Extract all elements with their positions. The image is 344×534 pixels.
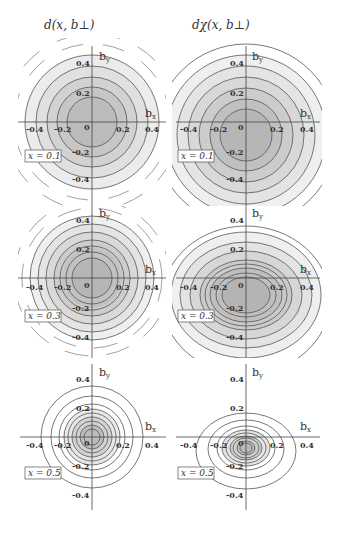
svg-text:-0.4: -0.4 bbox=[180, 440, 198, 450]
svg-text:-0.2: -0.2 bbox=[72, 461, 89, 471]
svg-text:x = 0.3: x = 0.3 bbox=[28, 311, 61, 321]
svg-text:x = 0.3: x = 0.3 bbox=[181, 311, 214, 321]
svg-text:x = 0.1: x = 0.1 bbox=[28, 151, 61, 161]
axis-label-bx: bx bbox=[145, 263, 156, 277]
svg-text:0.2: 0.2 bbox=[270, 440, 284, 450]
svg-text:0.4: 0.4 bbox=[76, 215, 90, 225]
svg-text:-0.4: -0.4 bbox=[226, 490, 244, 500]
row-label-x01: x = 0.1 bbox=[25, 150, 61, 162]
axis-label-bx: bx bbox=[300, 420, 311, 434]
svg-text:x = 0.5: x = 0.5 bbox=[28, 468, 61, 478]
svg-text:-0.4: -0.4 bbox=[226, 174, 244, 184]
svg-text:0: 0 bbox=[84, 438, 90, 448]
svg-text:-0.2: -0.2 bbox=[226, 303, 243, 313]
svg-text:-0.4: -0.4 bbox=[180, 282, 198, 292]
svg-text:-0.2: -0.2 bbox=[54, 282, 71, 292]
svg-text:-0.2: -0.2 bbox=[210, 124, 227, 134]
row-label-x05: x = 0.5 bbox=[25, 467, 61, 479]
svg-text:-0.2: -0.2 bbox=[210, 282, 227, 292]
axis-label-by: by bbox=[252, 207, 263, 221]
svg-text:0.4: 0.4 bbox=[230, 58, 244, 68]
svg-text:-0.4: -0.4 bbox=[72, 490, 90, 500]
svg-text:0: 0 bbox=[238, 438, 244, 448]
svg-text:-0.4: -0.4 bbox=[226, 332, 244, 342]
svg-text:0.4: 0.4 bbox=[76, 374, 90, 384]
panel-d-x03 bbox=[14, 200, 170, 358]
figure-canvas: by bx 0.4 0.2 -0.2 -0.4 -0.4 -0.2 0 0.2 … bbox=[0, 0, 344, 534]
panel-d-x01 bbox=[4, 34, 180, 210]
svg-text:x = 0.5: x = 0.5 bbox=[181, 468, 214, 478]
svg-text:0.2: 0.2 bbox=[116, 282, 130, 292]
svg-text:0.2: 0.2 bbox=[116, 124, 130, 134]
axis-label-by: by bbox=[99, 50, 110, 64]
svg-text:-0.2: -0.2 bbox=[72, 147, 89, 157]
svg-text:-0.4: -0.4 bbox=[26, 282, 44, 292]
axis-label-by: by bbox=[99, 366, 110, 380]
svg-text:0.4: 0.4 bbox=[145, 282, 159, 292]
svg-text:x = 0.1: x = 0.1 bbox=[181, 151, 214, 161]
axis-label-by: by bbox=[252, 366, 263, 380]
svg-text:0: 0 bbox=[84, 280, 90, 290]
svg-text:-0.2: -0.2 bbox=[72, 303, 89, 313]
svg-text:0.2: 0.2 bbox=[76, 244, 90, 254]
svg-text:0.4: 0.4 bbox=[300, 440, 314, 450]
axis-label-by: by bbox=[252, 50, 263, 64]
svg-text:-0.2: -0.2 bbox=[210, 440, 227, 450]
row-label-x03: x = 0.3 bbox=[178, 310, 214, 322]
svg-text:0.4: 0.4 bbox=[145, 440, 159, 450]
svg-text:0.4: 0.4 bbox=[76, 58, 90, 68]
row-label-x05: x = 0.5 bbox=[178, 467, 214, 479]
svg-text:0.2: 0.2 bbox=[230, 88, 244, 98]
svg-text:-0.4: -0.4 bbox=[72, 332, 90, 342]
row-label-x03: x = 0.3 bbox=[25, 310, 61, 322]
svg-text:0.2: 0.2 bbox=[76, 403, 90, 413]
panel-dchi-x01 bbox=[155, 44, 337, 226]
svg-text:0.4: 0.4 bbox=[230, 374, 244, 384]
svg-text:0.2: 0.2 bbox=[270, 124, 284, 134]
panel-dchi-x05 bbox=[176, 364, 320, 510]
svg-text:0.4: 0.4 bbox=[145, 124, 159, 134]
svg-text:0.4: 0.4 bbox=[230, 215, 244, 225]
svg-text:-0.4: -0.4 bbox=[26, 440, 44, 450]
svg-text:0: 0 bbox=[238, 280, 244, 290]
svg-text:0.2: 0.2 bbox=[270, 282, 284, 292]
axis-label-by: by bbox=[99, 207, 110, 221]
svg-text:0.2: 0.2 bbox=[230, 403, 244, 413]
svg-text:0.2: 0.2 bbox=[230, 244, 244, 254]
svg-text:0: 0 bbox=[84, 122, 90, 132]
svg-text:-0.2: -0.2 bbox=[54, 440, 71, 450]
axis-label-bx: bx bbox=[145, 420, 156, 434]
panel-d-x05 bbox=[20, 364, 166, 510]
svg-text:-0.4: -0.4 bbox=[72, 174, 90, 184]
svg-text:0.2: 0.2 bbox=[76, 88, 90, 98]
svg-text:0.2: 0.2 bbox=[116, 440, 130, 450]
svg-text:0.4: 0.4 bbox=[300, 124, 314, 134]
svg-text:-0.4: -0.4 bbox=[26, 124, 44, 134]
row-label-x01: x = 0.1 bbox=[178, 150, 214, 162]
svg-text:-0.2: -0.2 bbox=[54, 124, 71, 134]
svg-text:0: 0 bbox=[238, 122, 244, 132]
svg-text:0.4: 0.4 bbox=[300, 282, 314, 292]
svg-text:-0.4: -0.4 bbox=[180, 124, 198, 134]
svg-text:-0.2: -0.2 bbox=[226, 461, 243, 471]
svg-text:-0.2: -0.2 bbox=[226, 147, 243, 157]
